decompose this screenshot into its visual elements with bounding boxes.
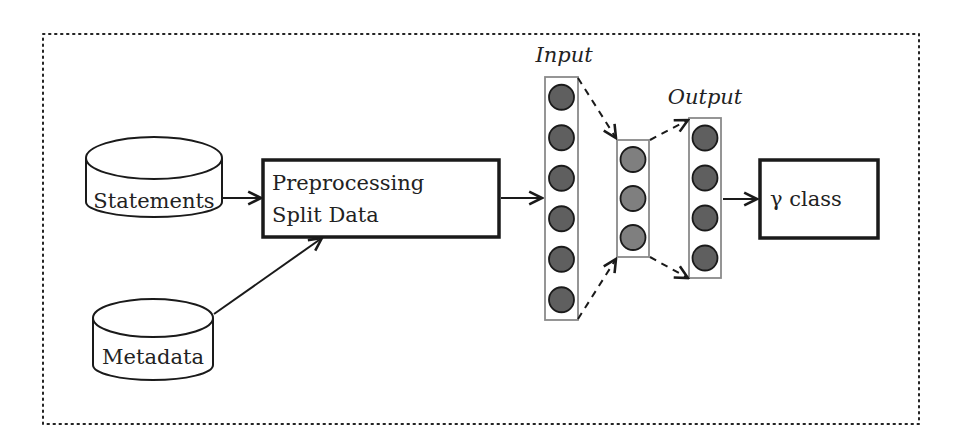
edge-input-bottom-to-hidden — [578, 259, 616, 319]
gamma-class-box: γ class — [760, 160, 878, 238]
input-layer-box — [545, 77, 578, 320]
output-neuron-3 — [693, 206, 718, 231]
neural-network — [545, 77, 721, 320]
input-neuron-3 — [549, 166, 574, 191]
input-neuron-5 — [549, 247, 574, 272]
output-neuron-2 — [693, 166, 718, 191]
statements-database: Statements — [86, 137, 222, 217]
input-neuron-2 — [549, 125, 574, 150]
output-layer-label: Output — [668, 85, 743, 109]
input-neuron-4 — [549, 206, 574, 231]
preprocessing-box: Preprocessing Split Data — [263, 160, 499, 237]
edge-hidden-top-to-output — [650, 120, 688, 140]
statements-cylinder-top — [86, 137, 222, 179]
edge-input-top-to-hidden — [578, 78, 616, 138]
output-neuron-1 — [693, 126, 718, 151]
output-neuron-4 — [693, 246, 718, 271]
input-layer-label: Input — [534, 43, 593, 67]
edge-metadata-to-preprocessing — [214, 238, 322, 314]
preprocessing-label: Preprocessing — [272, 171, 424, 195]
input-neuron-1 — [549, 85, 574, 110]
metadata-database: Metadata — [93, 299, 213, 380]
input-neuron-6 — [549, 287, 574, 312]
edge-hidden-bottom-to-output — [650, 257, 688, 278]
metadata-label: Metadata — [102, 345, 204, 369]
metadata-cylinder-top — [93, 299, 213, 337]
hidden-neuron-2 — [621, 186, 646, 211]
statements-label: Statements — [93, 189, 214, 213]
pipeline-diagram: Statements Metadata Preprocessing Split … — [0, 0, 965, 442]
gamma-class-label: γ class — [770, 187, 842, 211]
hidden-neuron-3 — [621, 225, 646, 250]
hidden-neuron-1 — [621, 147, 646, 172]
split-data-label: Split Data — [272, 203, 379, 227]
